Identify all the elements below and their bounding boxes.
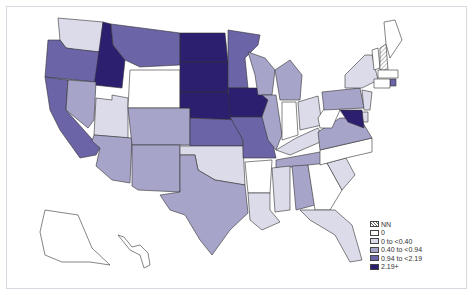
state-pa — [322, 88, 364, 110]
state-az — [92, 135, 132, 183]
state-nj — [362, 90, 372, 110]
state-ut — [94, 95, 128, 138]
legend-label: NN — [381, 221, 391, 228]
legend-item: 0.94 to <2.19 — [370, 254, 422, 263]
state-co — [128, 108, 190, 145]
map-legend: NN00 to <0.400.40 to <0.940.94 to <2.192… — [370, 220, 422, 271]
state-ri — [390, 79, 396, 86]
legend-label: 0.40 to <0.94 — [381, 246, 422, 253]
state-nd — [180, 33, 228, 62]
state-wy — [128, 70, 180, 108]
state-oh — [298, 96, 322, 130]
legend-item: NN — [370, 220, 422, 229]
legend-swatch — [370, 230, 379, 236]
state-in — [282, 102, 298, 140]
legend-swatch — [370, 247, 379, 253]
legend-swatch — [370, 221, 379, 227]
state-ma — [378, 70, 398, 78]
legend-item: 0 — [370, 229, 422, 238]
legend-label: 0 to <0.40 — [381, 238, 412, 245]
state-ak — [40, 210, 110, 265]
state-ct — [374, 79, 390, 88]
legend-item: 0.40 to <0.94 — [370, 246, 422, 255]
state-hi — [118, 235, 150, 268]
legend-label: 2.19+ — [381, 263, 399, 270]
state-sd — [180, 62, 228, 92]
state-ar — [245, 160, 272, 193]
state-mi — [275, 60, 302, 100]
legend-label: 0.94 to <2.19 — [381, 255, 422, 262]
legend-item: 0 to <0.40 — [370, 237, 422, 246]
state-nm — [132, 145, 180, 192]
state-ms — [272, 166, 290, 212]
legend-swatch — [370, 255, 379, 261]
legend-swatch — [370, 238, 379, 244]
legend-swatch — [370, 264, 379, 270]
legend-label: 0 — [381, 229, 385, 236]
state-nh — [380, 44, 388, 70]
state-fl — [300, 210, 362, 262]
legend-item: 2.19+ — [370, 263, 422, 272]
